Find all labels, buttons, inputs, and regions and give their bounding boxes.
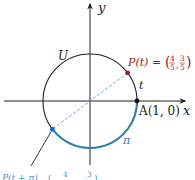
y-denominator: 5	[180, 63, 185, 72]
x-numerator: 4	[170, 54, 175, 63]
x-denominator: 5	[170, 63, 175, 72]
x-axis-label: x	[183, 103, 191, 118]
point-p-plus-pi	[50, 127, 55, 132]
unit-circle-diagram: y x U A(1, 0) t π P(t) = ( 4 5 , 3 5 ) P…	[0, 0, 195, 180]
y-numerator: 3	[180, 54, 185, 63]
pointer-line	[31, 131, 51, 166]
arc-pi-label: π	[122, 134, 131, 147]
comma: ,	[176, 60, 179, 70]
bottom-label-num2: 3	[87, 170, 92, 179]
bottom-label-num1: 4	[63, 170, 68, 179]
y-axis-label: y	[97, 0, 106, 15]
circle-label-u: U	[58, 49, 69, 63]
point-p-label: P(t) = ( 4 5 , 3 5 )	[127, 54, 191, 72]
bottom-label-paren-right: )	[94, 173, 98, 180]
bottom-label-fragment: P(t + π) ( 4 3 )	[1, 170, 98, 180]
right-paren: )	[186, 54, 191, 70]
point-p	[125, 70, 130, 75]
point-p-label-prefix: P(t) =	[127, 56, 161, 69]
arc-t-label: t	[139, 79, 144, 92]
bottom-label-paren: (	[48, 173, 52, 180]
bottom-label-start: P(t + π)	[1, 173, 38, 180]
point-a	[135, 99, 140, 104]
point-a-label: A(1, 0)	[138, 104, 180, 118]
